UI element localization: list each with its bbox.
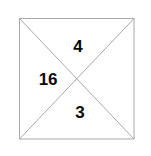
square-with-diagonals-graphic <box>0 0 151 156</box>
geometry-figure: 4 16 3 <box>0 0 151 156</box>
label-left-region: 16 <box>39 71 58 88</box>
label-bottom-region: 3 <box>75 104 84 121</box>
label-top-region: 4 <box>73 38 82 55</box>
